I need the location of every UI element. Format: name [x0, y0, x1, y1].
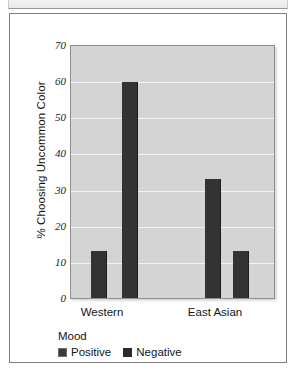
y-tick-30: 30	[32, 185, 66, 196]
legend-item-negative: Negative	[123, 346, 181, 358]
y-tick-10: 10	[32, 257, 66, 268]
y-tick-70: 70	[32, 40, 66, 51]
legend-items: Positive Negative	[58, 346, 182, 358]
legend: Mood Positive Negative	[58, 330, 182, 358]
bar-western-positive	[91, 251, 107, 298]
legend-title: Mood	[58, 330, 182, 342]
figure-frame: % Choosing Uncommon Color 70 60 50 40 30…	[9, 13, 287, 363]
bar-western-negative	[122, 82, 138, 298]
y-tick-60: 60	[32, 76, 66, 87]
bar-east-asian-positive	[205, 179, 221, 298]
x-category-label-western: Western	[62, 306, 142, 318]
y-axis-tick-labels: 70 60 50 40 30 20 10 0	[28, 14, 66, 380]
y-tick-0: 0	[32, 293, 66, 304]
gridline-60	[71, 82, 274, 83]
gridline-50	[71, 118, 274, 119]
y-tick-50: 50	[32, 112, 66, 123]
gridline-20	[71, 227, 274, 228]
legend-swatch-positive-icon	[58, 348, 67, 357]
gridline-40	[71, 154, 274, 155]
gridline-30	[71, 191, 274, 192]
bar-east-asian-negative	[233, 251, 249, 298]
legend-label-positive: Positive	[71, 346, 111, 358]
y-tick-20: 20	[32, 221, 66, 232]
legend-label-negative: Negative	[136, 346, 181, 358]
legend-swatch-negative-icon	[123, 348, 132, 357]
plot-area	[70, 45, 275, 299]
x-category-label-east-asian: East Asian	[175, 306, 255, 318]
top-cropped-strip	[8, 0, 288, 9]
legend-item-positive: Positive	[58, 346, 111, 358]
y-tick-40: 40	[32, 148, 66, 159]
